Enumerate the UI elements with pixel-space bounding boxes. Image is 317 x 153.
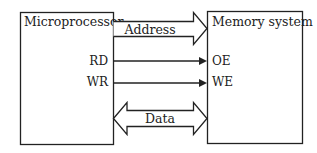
microprocessor-memory-diagram: Microprocessor RD WR Memory system OE WE…: [0, 0, 317, 153]
data-bus-arrow: Data: [114, 103, 208, 135]
microprocessor-block: Microprocessor RD WR: [21, 13, 124, 145]
rd-oe-signal-arrow: [114, 57, 208, 65]
wr-we-signal-arrow: [114, 79, 208, 87]
memory-system-label: Memory system: [212, 14, 313, 29]
address-label: Address: [123, 22, 175, 37]
rd-label: RD: [89, 54, 108, 68]
data-label: Data: [145, 111, 175, 126]
oe-label: OE: [212, 54, 231, 68]
microprocessor-label: Microprocessor: [24, 14, 124, 29]
wr-label: WR: [87, 75, 109, 89]
memory-system-block: Memory system OE WE: [208, 12, 313, 144]
we-label: WE: [212, 75, 233, 89]
address-bus-arrow: Address: [114, 13, 208, 45]
